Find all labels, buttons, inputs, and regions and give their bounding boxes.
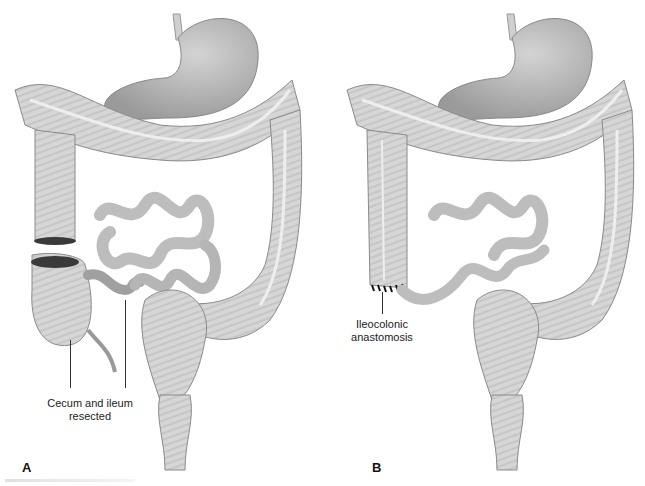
panel-b-after-anastomosis: Ileocolonic anastomosis B: [322, 0, 644, 486]
callout-ileocolonic-anastomosis: Ileocolonic anastomosis: [337, 318, 427, 344]
callout-leader-line: [70, 340, 71, 388]
sigmoid-colon: [142, 290, 207, 400]
ileum: [402, 250, 544, 299]
callout-leader-line: [382, 292, 383, 314]
rectum: [491, 395, 524, 470]
stomach: [438, 19, 592, 120]
appendix: [88, 330, 115, 372]
cut-edge-colon: [34, 237, 76, 245]
sigmoid-colon: [474, 290, 539, 400]
ascending-colon: [35, 130, 75, 240]
figure-caption-cutoff: [5, 479, 135, 482]
callout-cecum-ileum-resected: Cecum and ileum resected: [40, 397, 140, 423]
cut-edge-cecum: [31, 256, 79, 268]
colon-illustration-b: [322, 0, 644, 486]
panel-label-a: A: [22, 460, 31, 475]
small-intestine: [100, 198, 208, 264]
panel-a-before-resection: Cecum and ileum resected A: [0, 0, 322, 486]
panel-label-b: B: [372, 460, 381, 475]
rectum: [159, 395, 192, 470]
stomach: [104, 19, 258, 120]
callout-leader-line: [125, 300, 126, 388]
ascending-colon: [367, 130, 407, 288]
small-intestine: [434, 198, 542, 255]
